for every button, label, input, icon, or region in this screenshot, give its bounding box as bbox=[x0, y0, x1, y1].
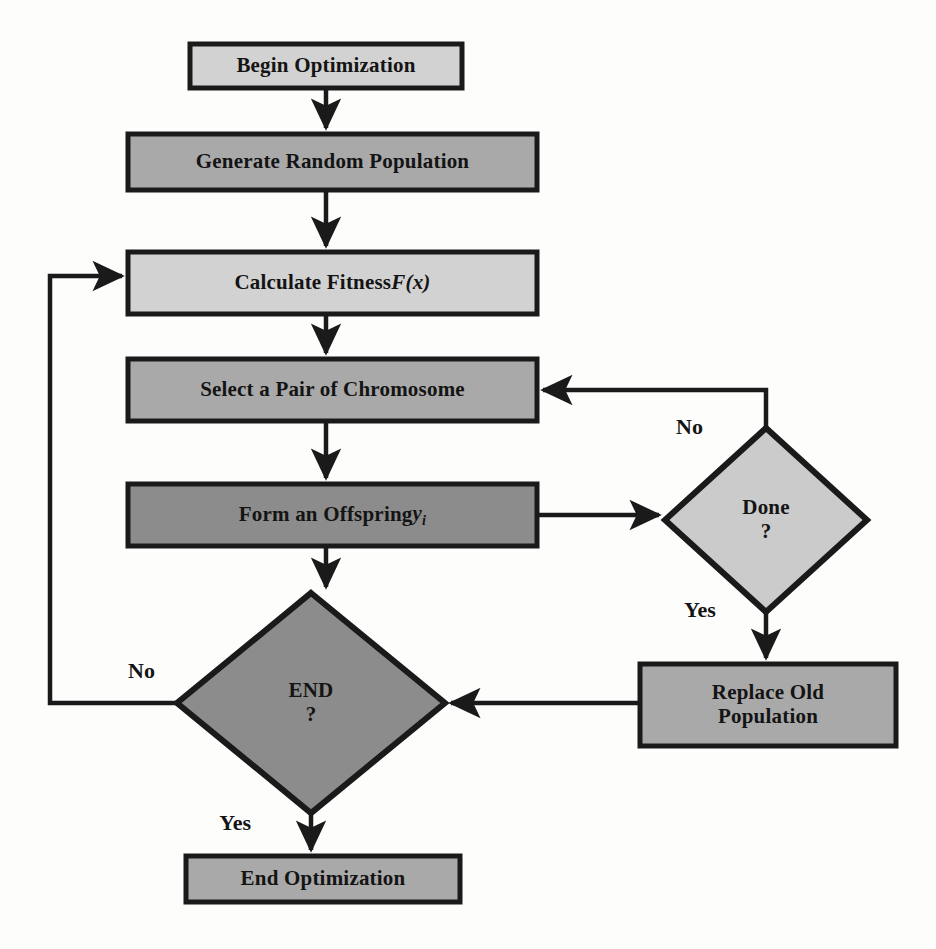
flowchart-canvas: Begin Optimization Generate Random Popul… bbox=[0, 0, 936, 949]
node-end-optimization bbox=[186, 856, 460, 902]
node-begin-optimization bbox=[190, 44, 462, 88]
edge-label-end-no: No bbox=[128, 658, 155, 684]
edge-label-done-yes: Yes bbox=[684, 597, 716, 623]
node-calculate-fitness bbox=[128, 252, 537, 314]
node-end-decision bbox=[177, 593, 445, 813]
node-done-decision bbox=[665, 428, 867, 612]
node-select-pair-chromosome bbox=[128, 359, 537, 421]
shape-layer bbox=[128, 44, 896, 902]
edge-done-no-to-select bbox=[543, 390, 766, 428]
node-replace-old-population bbox=[640, 664, 896, 746]
edge-label-end-yes: Yes bbox=[219, 810, 251, 836]
node-form-offspring bbox=[128, 484, 537, 546]
flowchart-svg bbox=[0, 0, 936, 949]
edge-label-done-no: No bbox=[676, 414, 703, 440]
node-generate-random-population bbox=[128, 134, 537, 190]
